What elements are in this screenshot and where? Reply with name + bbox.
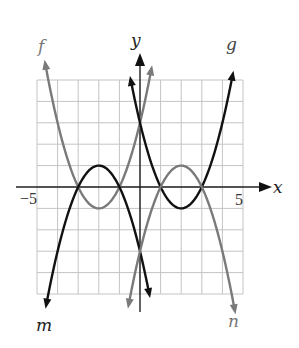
curve-m-arrow-icon (43, 298, 51, 309)
x-axis-label: x (273, 177, 283, 197)
curve-label-f: f (36, 36, 47, 56)
curve-g-arrow-icon (228, 71, 236, 82)
curve-label-m: m (36, 315, 52, 335)
curve-label-n: n (228, 311, 239, 331)
x-tick-label-max: 5 (235, 191, 243, 208)
curve-label-g: g (226, 34, 237, 54)
y-axis-arrow-icon (135, 53, 145, 66)
curve-g-arrow-icon (128, 76, 136, 87)
y-axis-label: y (130, 30, 141, 50)
curve-m-arrow-icon (144, 287, 152, 298)
curve-f-arrow-icon (146, 65, 154, 76)
parabola-graph: y x −5 5 f g m n (0, 0, 299, 348)
x-axis-arrow-icon (259, 182, 272, 192)
curve-f-arrow-icon (42, 60, 50, 71)
x-tick-label-min: −5 (20, 190, 37, 207)
curve-n-arrow-icon (126, 298, 134, 309)
